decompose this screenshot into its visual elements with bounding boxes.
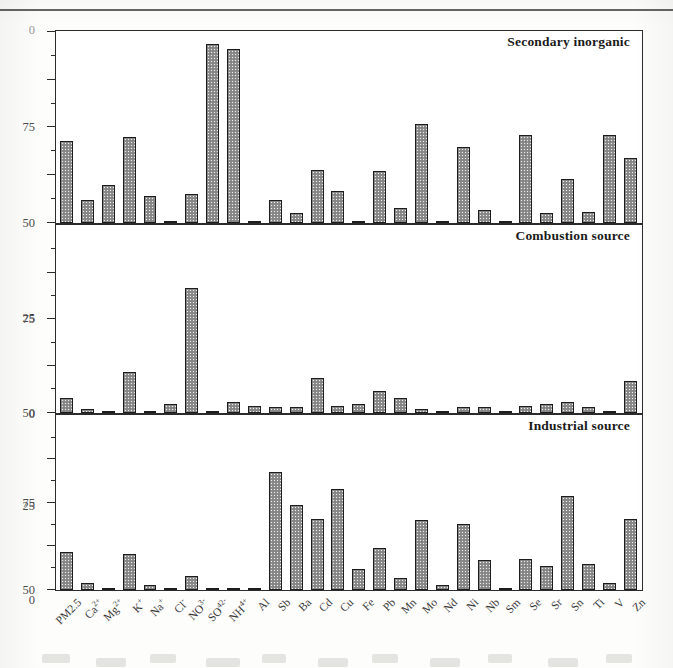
bar — [331, 489, 344, 590]
bar — [478, 560, 491, 590]
bar — [81, 200, 94, 223]
y-axis-tick: 50 — [47, 126, 56, 127]
bar — [164, 588, 177, 590]
y-axis-tick: 75 — [47, 458, 56, 459]
bar — [81, 583, 94, 590]
bar — [81, 409, 94, 413]
bar — [436, 221, 449, 223]
bar — [311, 170, 324, 223]
x-axis-label: Sn — [568, 596, 585, 613]
y-axis-tick: 75 — [47, 272, 56, 273]
y-axis-tick: 75 — [47, 79, 56, 80]
bar — [123, 372, 136, 413]
y-axis-tick: 50 — [47, 502, 56, 503]
y-axis-tick: 0 — [47, 222, 56, 223]
bar — [582, 564, 595, 590]
scan-smudge — [42, 654, 70, 663]
bar — [582, 212, 595, 223]
y-axis-minor-tick — [51, 150, 56, 151]
x-axis-label: Ba — [296, 596, 314, 614]
bar — [499, 221, 512, 223]
y-axis-tick-max: 0 — [47, 31, 56, 32]
bar — [60, 398, 73, 413]
bar — [394, 398, 407, 413]
bar — [123, 554, 136, 590]
bar — [499, 588, 512, 590]
y-axis-minor-tick — [51, 388, 56, 389]
panel-combustion-source: Combustion source 0255075 — [55, 224, 643, 414]
bar — [561, 402, 574, 413]
bar — [311, 519, 324, 590]
bar — [331, 406, 344, 413]
bar — [269, 200, 282, 223]
bar — [478, 210, 491, 223]
x-axis-label: Nd — [441, 596, 459, 614]
scan-smudge — [262, 654, 286, 663]
bar — [415, 520, 428, 590]
bar — [60, 141, 73, 223]
scan-smudge — [150, 654, 176, 663]
bar — [248, 406, 261, 413]
y-axis-tick: 25 — [47, 174, 56, 175]
x-axis-label: Mo — [419, 596, 439, 616]
bar — [290, 213, 303, 223]
bar — [394, 578, 407, 590]
bar — [582, 407, 595, 413]
bar — [373, 391, 386, 413]
x-axis-label: Sb — [276, 596, 293, 613]
bar — [185, 194, 198, 223]
y-axis-minor-tick — [51, 480, 56, 481]
y-axis-minor-tick — [51, 103, 56, 104]
bar — [436, 411, 449, 413]
bar — [164, 404, 177, 413]
bar — [624, 158, 637, 223]
x-axis-label: Pb — [380, 596, 397, 613]
bar — [603, 135, 616, 223]
bar — [206, 588, 219, 590]
y-axis-tick: 0 — [47, 412, 56, 413]
bar — [290, 505, 303, 590]
bar — [164, 221, 177, 223]
x-axis-label: Nb — [483, 596, 501, 614]
y-axis-minor-tick — [51, 198, 56, 199]
scan-smudge — [488, 654, 512, 663]
bar — [540, 566, 553, 590]
y-axis-minor-tick — [51, 567, 56, 568]
x-axis-label: Sm — [503, 596, 522, 615]
bar — [561, 179, 574, 223]
y-axis-tick-label: 75 — [23, 312, 36, 327]
panel-industrial-source: Industrial source 0255075 — [55, 414, 643, 591]
x-axis-label: Al — [255, 596, 272, 613]
bar — [227, 49, 240, 223]
bar — [603, 583, 616, 590]
y-axis-tick: 25 — [47, 365, 56, 366]
bar — [624, 519, 637, 590]
bar — [144, 411, 157, 413]
plot-area-industrial-source: 0255075 — [56, 415, 642, 590]
bar — [227, 588, 240, 590]
bar — [478, 407, 491, 413]
y-axis-tick: 50 — [47, 318, 56, 319]
bar — [311, 378, 324, 413]
bar — [499, 411, 512, 413]
y-axis-minor-tick — [51, 55, 56, 56]
x-axis-label: Ca2+ — [81, 596, 106, 621]
bar — [373, 171, 386, 223]
y-axis-tick-label: 50 — [23, 582, 36, 597]
bar — [457, 147, 470, 223]
x-axis-label: V — [613, 596, 627, 610]
bar — [352, 569, 365, 590]
scan-smudge — [548, 658, 578, 667]
bar — [290, 407, 303, 413]
scan-smudge — [318, 658, 348, 667]
y-axis-tick-label: 50 — [23, 215, 36, 230]
scan-smudge — [430, 658, 460, 667]
y-axis-minor-tick — [51, 248, 56, 249]
bar — [185, 288, 198, 413]
y-axis-tick-label: 75 — [23, 120, 36, 135]
bar — [331, 191, 344, 223]
bar — [185, 576, 198, 590]
y-axis-tick-label: 50 — [23, 405, 36, 420]
y-axis-minor-tick — [51, 295, 56, 296]
y-axis-tick: 25 — [47, 545, 56, 546]
